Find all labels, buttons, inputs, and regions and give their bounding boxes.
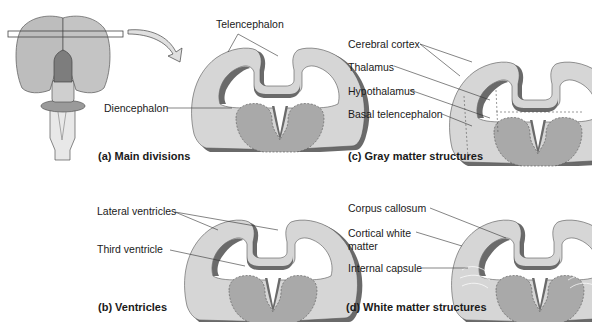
label-thalamus: Thalamus: [348, 61, 394, 73]
panel-gray-matter: Cerebral cortex Thalamus Hypothalamus Ba…: [300, 0, 592, 170]
label-lateral-ventricles: Lateral ventricles: [97, 205, 176, 217]
panel-main-divisions: Telencephalon Diencephalon (a) Main divi…: [0, 0, 300, 170]
label-cerebral-cortex: Cerebral cortex: [348, 38, 420, 50]
section-c: [300, 0, 592, 170]
label-hypothalamus: Hypothalamus: [348, 85, 415, 97]
caption-b: (b) Ventricles: [98, 301, 167, 313]
label-telencephalon: Telencephalon: [216, 18, 284, 30]
label-cortical-white-matter-line2: matter: [348, 240, 378, 252]
label-basal-telencephalon: Basal telencephalon: [348, 108, 443, 120]
caption-d: (d) White matter structures: [346, 301, 487, 313]
panel-ventricles: Lateral ventricles Third ventricle (b) V…: [0, 170, 300, 322]
label-corpus-callosum: Corpus callosum: [348, 202, 426, 214]
panel-white-matter: Corpus callosum Cortical white matter In…: [300, 170, 592, 322]
label-cortical-white-matter-line1: Cortical white: [348, 227, 411, 239]
label-internal-capsule: Internal capsule: [348, 262, 422, 274]
caption-c: (c) Gray matter structures: [348, 150, 483, 162]
section-d: [300, 170, 592, 322]
label-diencephalon: Diencephalon: [104, 102, 168, 114]
label-third-ventricle: Third ventricle: [97, 243, 163, 255]
caption-a: (a) Main divisions: [98, 150, 190, 162]
